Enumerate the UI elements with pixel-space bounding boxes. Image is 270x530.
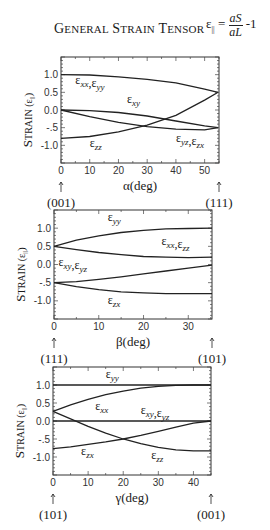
x-tick-label: 10: [93, 321, 105, 332]
curve-label: εxy,εyz: [58, 255, 87, 274]
direction-left: (111): [40, 351, 67, 366]
direction-left: (001): [47, 195, 75, 210]
y-tick-label: 0.5: [44, 87, 58, 98]
curve-label: εzx: [81, 444, 94, 460]
y-tick-label: -.5: [38, 434, 50, 445]
x-tick-label: 40: [170, 165, 182, 176]
curve-label: εyy: [106, 367, 119, 383]
y-tick-label: -.5: [46, 122, 58, 133]
y-tick-label: 0.5: [36, 398, 50, 409]
direction-right: (101): [198, 351, 226, 366]
strain-chart-2: 1.00.50.0-.5-1.00102030STRAIN (ε||)εyyεx…: [13, 210, 226, 366]
curve-label: εzx: [108, 293, 121, 309]
direction-right: (111): [205, 195, 232, 210]
y-tick-label: 0.0: [44, 105, 58, 116]
x-tick-label: 0: [58, 165, 64, 176]
x-tick-label: 30: [153, 477, 165, 488]
series-line-5: [53, 421, 211, 449]
curve-label: εyz,εzx: [176, 131, 204, 150]
x-axis-label: α(deg): [123, 178, 157, 193]
charts-canvas: 1.00.50.0-.5-1.001020304050STRAIN (ε||)ε…: [0, 0, 270, 530]
series-line-2: [53, 385, 211, 411]
y-axis-label: STRAIN (ε||): [20, 93, 36, 148]
x-tick-label: 30: [183, 321, 195, 332]
y-tick-label: 1.0: [36, 380, 50, 391]
x-axis-label: γ(deg): [114, 490, 148, 505]
direction-right: (001): [197, 507, 225, 522]
x-axis-label: β(deg): [116, 334, 150, 349]
y-tick-label: -1.0: [41, 140, 59, 151]
curve-label: εzz: [90, 136, 103, 152]
curve-label: εxx: [95, 399, 108, 415]
series-line-4: [53, 411, 211, 451]
x-tick-label: 0: [50, 477, 56, 488]
curve-label: εxy: [127, 92, 140, 108]
x-tick-label: 20: [138, 321, 150, 332]
x-tick-label: 0: [51, 321, 57, 332]
y-tick-label: -1.0: [33, 452, 51, 463]
y-axis-label: STRAIN (ε||): [13, 247, 29, 302]
y-tick-label: -.5: [39, 277, 51, 288]
strain-chart-3: 1.00.50.0-.5-1.0010203040STRAIN (ε||)εyy…: [12, 367, 225, 522]
series-line-4: [54, 283, 212, 294]
x-tick-label: 10: [83, 477, 95, 488]
x-tick-label: 20: [118, 477, 130, 488]
x-tick-label: 40: [188, 477, 200, 488]
x-tick-label: 20: [113, 165, 125, 176]
strain-chart-1: 1.00.50.0-.5-1.001020304050STRAIN (ε||)ε…: [20, 57, 233, 210]
x-tick-label: 10: [84, 165, 96, 176]
y-tick-label: 1.0: [44, 69, 58, 80]
y-tick-label: 0.5: [37, 241, 51, 252]
curve-label: εxy,εyz: [141, 403, 170, 422]
x-tick-label: 50: [199, 165, 211, 176]
y-axis-label: STRAIN (ε||): [12, 404, 28, 459]
y-tick-label: 1.0: [37, 223, 51, 234]
curve-label: εyy: [108, 210, 121, 226]
y-tick-label: 0.0: [37, 259, 51, 270]
y-tick-label: 0.0: [36, 416, 50, 427]
curve-label: εxx,εzz: [161, 234, 190, 253]
y-tick-label: -1.0: [34, 295, 52, 306]
x-tick-label: 30: [142, 165, 154, 176]
direction-left: (101): [39, 507, 67, 522]
curve-label: εzz: [151, 448, 164, 464]
